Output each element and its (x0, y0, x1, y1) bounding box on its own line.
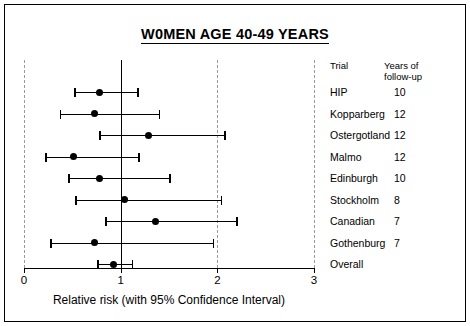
point-estimate-marker (70, 153, 77, 160)
trial-name-label: Malmo (330, 151, 362, 163)
ci-cap-upper (169, 174, 171, 183)
confidence-interval-line (50, 243, 214, 244)
gridline (314, 60, 315, 268)
x-axis-label: Relative risk (with 95% Confidence Inter… (24, 293, 314, 307)
point-estimate-marker (91, 239, 98, 246)
forest-row (24, 135, 314, 136)
point-estimate-marker (91, 110, 98, 117)
confidence-interval-line (99, 135, 226, 136)
plot-area (24, 60, 314, 268)
legend-header-years-line2: follow-up (384, 71, 442, 82)
forest-row (24, 243, 314, 244)
forest-row (24, 221, 314, 222)
follow-up-years-label: 12 (394, 151, 406, 163)
trial-name-label: Ostergotland (330, 129, 390, 141)
legend-header-years-line1: Years of (384, 60, 442, 71)
follow-up-years-label: 10 (394, 172, 406, 184)
forest-row (24, 264, 314, 265)
confidence-interval-line (68, 178, 170, 179)
follow-up-years-label: 7 (394, 237, 400, 249)
x-tick (217, 268, 218, 273)
point-estimate-marker (110, 261, 117, 268)
follow-up-years-label: 8 (394, 194, 400, 206)
x-tick-label: 3 (311, 274, 317, 286)
confidence-interval-line (75, 200, 222, 201)
trial-name-label: Gothenburg (330, 237, 385, 249)
trial-name-label: Canadian (330, 215, 375, 227)
legend-header-trial: Trial (330, 60, 348, 71)
confidence-interval-line (105, 221, 237, 222)
point-estimate-marker (145, 132, 152, 139)
ci-cap-lower (68, 174, 70, 183)
confidence-interval-line (60, 114, 161, 115)
forest-row (24, 157, 314, 158)
forest-row (24, 92, 314, 93)
ci-cap-upper (137, 88, 139, 97)
ci-cap-upper (213, 239, 215, 248)
ci-cap-lower (45, 153, 47, 162)
ci-cap-lower (105, 217, 107, 226)
confidence-interval-line (45, 157, 140, 158)
ci-cap-upper (138, 153, 140, 162)
x-tick-label: 2 (214, 274, 220, 286)
legend-panel: Trial Years of follow-up HIP10Kopparberg… (322, 60, 462, 275)
trial-name-label: Overall (330, 258, 363, 270)
ci-cap-upper (159, 110, 161, 119)
ci-cap-lower (60, 110, 62, 119)
x-tick (121, 268, 122, 273)
trial-name-label: Stockholm (330, 194, 379, 206)
ci-cap-upper (224, 131, 226, 140)
x-tick-label: 0 (21, 274, 27, 286)
trial-name-label: Kopparberg (330, 108, 385, 120)
x-axis (24, 268, 314, 269)
x-tick (24, 268, 25, 273)
ci-cap-lower (75, 196, 77, 205)
x-tick-label: 1 (117, 274, 123, 286)
point-estimate-marker (96, 89, 103, 96)
confidence-interval-line (74, 92, 139, 93)
chart-title: W0MEN AGE 40-49 YEARS (0, 26, 470, 42)
trial-name-label: HIP (330, 86, 348, 98)
point-estimate-marker (152, 218, 159, 225)
follow-up-years-label: 7 (394, 215, 400, 227)
follow-up-years-label: 12 (394, 108, 406, 120)
ci-cap-upper (236, 217, 238, 226)
forest-row (24, 114, 314, 115)
follow-up-years-label: 12 (394, 129, 406, 141)
ci-cap-lower (99, 131, 101, 140)
ci-cap-lower (50, 239, 52, 248)
follow-up-years-label: 10 (394, 86, 406, 98)
trial-name-label: Edinburgh (330, 172, 378, 184)
chart-figure: W0MEN AGE 40-49 YEARS Relative risk (wit… (0, 0, 470, 326)
ci-cap-lower (74, 88, 76, 97)
point-estimate-marker (96, 175, 103, 182)
forest-row (24, 178, 314, 179)
legend-header-years: Years of follow-up (384, 60, 442, 82)
x-tick (314, 268, 315, 273)
point-estimate-marker (121, 196, 128, 203)
ci-cap-upper (221, 196, 223, 205)
forest-row (24, 200, 314, 201)
chart-title-text: W0MEN AGE 40-49 YEARS (141, 26, 329, 44)
